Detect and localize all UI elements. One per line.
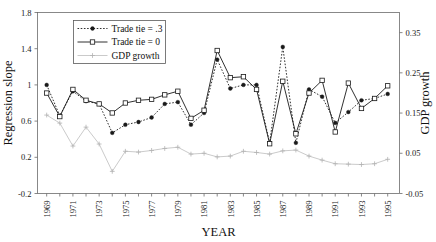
y-axis-left: 1.81.410.60.2-0.2 — [18, 8, 37, 199]
data-point-filled-circle — [242, 83, 246, 87]
data-point-open-square — [202, 108, 206, 112]
data-point-open-square — [307, 91, 311, 95]
legend-marker-open-square — [90, 40, 94, 44]
y-axis-left-tick-label: 1.4 — [21, 44, 32, 54]
data-point-plus — [149, 148, 154, 153]
data-point-filled-circle — [123, 123, 127, 127]
y-axis-left-tick-label: 1 — [27, 80, 31, 90]
data-point-open-square — [254, 87, 258, 91]
data-point-plus — [215, 154, 220, 159]
data-point-open-square — [241, 75, 245, 79]
data-point-open-square — [359, 106, 363, 110]
legend-label: GDP growth — [112, 51, 160, 61]
data-point-filled-circle — [176, 100, 180, 104]
data-point-plus — [307, 154, 312, 159]
data-point-filled-circle — [137, 120, 141, 124]
data-point-plus — [333, 161, 338, 166]
data-point-filled-circle — [45, 83, 49, 87]
x-axis-tick-label: 1979 — [173, 201, 183, 218]
x-axis-tick-label: 1985 — [252, 201, 262, 218]
data-point-open-square — [44, 91, 48, 95]
data-point-plus — [136, 150, 141, 155]
y-axis-right-title: GDP growth — [418, 71, 432, 135]
data-point-plus — [280, 148, 285, 153]
data-point-filled-circle — [163, 102, 167, 106]
x-axis-tick-label: 1989 — [304, 201, 314, 218]
data-point-open-square — [176, 89, 180, 93]
y-axis-left-tick-label: -0.2 — [18, 189, 31, 199]
x-axis-title: YEAR — [201, 225, 236, 239]
x-axis-tick-label: 1973 — [94, 201, 104, 218]
data-point-open-square — [372, 96, 376, 100]
data-point-open-square — [281, 79, 285, 83]
data-point-plus — [385, 157, 390, 162]
data-point-plus — [71, 144, 76, 149]
data-point-open-square — [215, 48, 219, 52]
data-point-filled-circle — [333, 121, 337, 125]
x-axis-tick-label: 1991 — [330, 201, 340, 218]
data-point-filled-circle — [320, 95, 324, 99]
x-axis-tick-label: 1975 — [121, 201, 131, 218]
data-point-filled-circle — [255, 83, 259, 87]
regression-slope-line-chart: 1.81.410.60.2-0.20.350.250.150.05-0.0519… — [0, 0, 436, 242]
y-axis-right-tick-label: -0.05 — [406, 189, 424, 199]
y-axis-right-tick-label: 0.05 — [406, 148, 421, 158]
data-point-filled-circle — [228, 87, 232, 91]
data-point-plus — [228, 154, 233, 159]
data-point-filled-circle — [294, 141, 298, 145]
data-point-plus — [293, 148, 298, 153]
y-axis-left-tick-label: 0.6 — [21, 116, 32, 126]
data-point-plus — [346, 162, 351, 167]
data-point-plus — [57, 121, 62, 126]
data-point-filled-circle — [189, 123, 193, 127]
data-point-plus — [320, 158, 325, 163]
x-axis-tick-label: 1993 — [357, 201, 367, 218]
x-axis-tick-label: 1987 — [278, 201, 288, 218]
data-point-filled-circle — [386, 92, 390, 96]
x-axis-tick-label: 1981 — [199, 201, 209, 218]
y-axis-left-tick-label: 1.8 — [21, 8, 32, 18]
y-axis-left-title: Regression slope — [1, 60, 15, 146]
data-point-plus — [359, 162, 364, 167]
data-point-open-square — [136, 98, 140, 102]
legend-label: Trade tie = .3 — [112, 24, 163, 34]
data-point-open-square — [84, 98, 88, 102]
x-axis-tick-label: 1977 — [147, 201, 157, 218]
data-point-filled-circle — [281, 45, 285, 49]
data-point-plus — [202, 151, 207, 156]
data-point-plus — [110, 169, 115, 174]
data-point-plus — [254, 150, 259, 155]
data-point-plus — [372, 161, 377, 166]
x-axis-tick-label: 1983 — [226, 201, 236, 218]
legend-label: Trade tie = 0 — [112, 37, 161, 47]
data-point-open-square — [333, 130, 337, 134]
x-axis-tick-label: 1995 — [383, 201, 393, 218]
data-point-open-square — [294, 132, 298, 136]
data-point-open-square — [267, 142, 271, 146]
data-point-plus — [44, 113, 49, 118]
data-point-filled-circle — [110, 131, 114, 135]
data-point-filled-circle — [346, 110, 350, 114]
x-axis: 1969197119731975197719791981198319851987… — [42, 194, 393, 218]
chart-figure: 1.81.410.60.2-0.20.350.250.150.05-0.0519… — [0, 0, 436, 242]
data-point-plus — [189, 152, 194, 157]
data-point-plus — [241, 149, 246, 154]
x-axis-tick-label: 1969 — [42, 201, 52, 218]
y-axis-left-tick-label: 0.2 — [21, 152, 32, 162]
data-point-plus — [175, 145, 180, 150]
data-point-plus — [123, 149, 128, 154]
legend-marker-filled-circle — [91, 27, 95, 31]
data-point-open-square — [189, 116, 193, 120]
data-point-open-square — [228, 75, 232, 79]
data-point-open-square — [97, 102, 101, 106]
data-point-open-square — [58, 114, 62, 118]
data-point-plus — [267, 152, 272, 157]
data-point-plus — [162, 146, 167, 151]
data-point-filled-circle — [360, 98, 364, 102]
data-point-open-square — [149, 97, 153, 101]
y-axis-right-tick-label: 0.35 — [406, 28, 421, 38]
data-point-open-square — [71, 87, 75, 91]
data-point-open-square — [346, 81, 350, 85]
data-point-open-square — [163, 93, 167, 97]
x-axis-tick-label: 1971 — [68, 201, 78, 218]
